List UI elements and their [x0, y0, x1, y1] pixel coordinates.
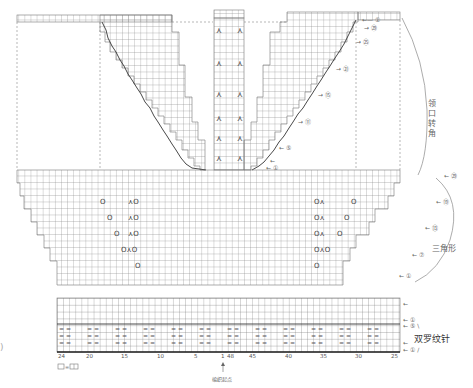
double-rib-label: 双罗纹针: [414, 333, 450, 344]
svg-text:⋏: ⋏: [237, 134, 243, 143]
svg-text:= =: = =: [227, 325, 239, 332]
svg-text:48: 48: [227, 353, 234, 359]
start-label: 编织起点: [212, 376, 232, 383]
svg-text:O⋏: O⋏: [314, 230, 325, 238]
svg-text:⋏O: ⋏O: [128, 230, 139, 238]
svg-text:= =: = =: [171, 339, 183, 346]
svg-text:40: 40: [285, 353, 292, 359]
start-point-arrow: [221, 362, 225, 372]
svg-text:= =: = =: [367, 339, 379, 346]
svg-text:← ⑬: ← ⑬: [425, 224, 438, 232]
svg-text:=: =: [65, 364, 69, 370]
svg-text:= =: = =: [143, 332, 155, 339]
svg-text:1: 1: [221, 353, 225, 359]
svg-text:← ① /: ← ① /: [403, 346, 420, 353]
neck-bracket: [402, 18, 427, 175]
svg-text:O: O: [337, 230, 343, 238]
row-markers-body: ← ㉙ ← ⑲ ← ⑬ ← ⑦ ← ①: [399, 172, 457, 279]
svg-text:= =: = =: [143, 325, 155, 332]
svg-text:= =: = =: [115, 339, 127, 346]
svg-text:= =: = =: [339, 332, 351, 339]
x-axis-labels: 24 20 15 10 5 1 48 45 40 35 30 25: [58, 353, 398, 359]
svg-text:转: 转: [428, 118, 436, 128]
paren-mark: ): [0, 342, 4, 352]
svg-text:= =: = =: [227, 332, 239, 339]
right-neck-staircase: [244, 12, 358, 170]
svg-text:= =: = =: [199, 325, 211, 332]
svg-text:⋏O: ⋏O: [128, 214, 139, 222]
svg-text:⋏: ⋏: [216, 114, 222, 123]
svg-text:10: 10: [157, 353, 164, 359]
svg-text:= =: = =: [87, 332, 99, 339]
svg-text:= =: = =: [115, 325, 127, 332]
center-column: ⋏⋏ ⋏⋏ ⋏⋏ ⋏⋏ ⋏⋏ ⋏⋏: [214, 10, 244, 170]
svg-text:⋏: ⋏: [237, 154, 243, 163]
svg-text:← ㉙: ← ㉙: [444, 172, 457, 180]
svg-text:30: 30: [355, 353, 362, 359]
svg-text:⋏: ⋏: [216, 90, 222, 99]
svg-text:= =: = =: [59, 339, 71, 346]
svg-text:O: O: [314, 262, 320, 270]
svg-text:⋏: ⋏: [237, 90, 243, 99]
left-neck-staircase: [100, 15, 206, 170]
svg-text:⋏: ⋏: [216, 154, 222, 163]
svg-text:← ⑦: ← ⑦: [412, 251, 424, 258]
row-markers-rib: ← ← ① ← ⑤ \ ← ← ① /: [403, 300, 420, 353]
svg-text:= =: = =: [255, 339, 267, 346]
svg-text:= =: = =: [87, 339, 99, 346]
knitting-chart: ⋏⋏ ⋏⋏ ⋏⋏ ⋏⋏ ⋏⋏ ⋏⋏ O⋏O O⋏O O⋏O O⋏O O O⋏O: [0, 0, 473, 388]
svg-text:⋏: ⋏: [237, 26, 243, 35]
svg-text:= =: = =: [311, 339, 323, 346]
svg-text:→ ㉙: → ㉙: [364, 24, 377, 32]
main-body-grid: O⋏O O⋏O O⋏O O⋏O O O⋏O O⋏O O⋏O O⋏O O: [17, 170, 400, 285]
svg-text:= =: = =: [283, 332, 295, 339]
svg-text:= =: = =: [283, 339, 295, 346]
svg-text:⋏: ⋏: [237, 114, 243, 123]
svg-text:O: O: [114, 230, 120, 238]
svg-text:口: 口: [428, 109, 436, 118]
svg-text:= =: = =: [171, 325, 183, 332]
svg-text:← ⑤: ← ⑤: [279, 144, 291, 151]
svg-text:45: 45: [249, 353, 256, 359]
svg-text:→ ㉑: → ㉑: [336, 65, 349, 73]
double-rib-band: = == == == == == == == == == == == = = =…: [57, 298, 400, 352]
neck-shaping-label: 领口转角: [428, 98, 436, 138]
svg-text:→ ⑪: → ⑪: [298, 118, 311, 126]
legend: =: [58, 364, 78, 370]
svg-text:= =: = =: [171, 332, 183, 339]
svg-text:= =: = =: [199, 339, 211, 346]
svg-text:←— ①: ←— ①: [362, 16, 380, 23]
svg-text:⋏: ⋏: [216, 134, 222, 143]
svg-text:← ①: ← ①: [266, 164, 278, 171]
svg-text:= =: = =: [339, 325, 351, 332]
svg-text:= =: = =: [143, 339, 155, 346]
svg-text:O: O: [100, 198, 106, 206]
svg-text:角: 角: [428, 128, 436, 138]
svg-text:= =: = =: [311, 332, 323, 339]
svg-text:←: ←: [270, 157, 275, 164]
svg-text:= =: = =: [115, 332, 127, 339]
svg-text:= =: = =: [255, 325, 267, 332]
svg-text:35: 35: [320, 353, 327, 359]
svg-text:←: ←: [403, 339, 408, 346]
svg-text:⋏: ⋏: [216, 59, 222, 68]
svg-text:领: 领: [428, 98, 436, 108]
svg-text:= =: = =: [339, 339, 351, 346]
svg-text:O⋏O: O⋏O: [314, 246, 331, 254]
svg-text:⋏: ⋏: [237, 59, 243, 68]
svg-text:= =: = =: [311, 325, 323, 332]
svg-text:O⋏: O⋏: [314, 214, 325, 222]
svg-text:20: 20: [86, 353, 93, 359]
svg-text:= =: = =: [367, 332, 379, 339]
svg-text:= =: = =: [59, 325, 71, 332]
svg-text:O⋏O: O⋏O: [121, 246, 138, 254]
svg-text:⋏: ⋏: [216, 26, 222, 35]
svg-text:←: ←: [403, 300, 408, 307]
svg-text:← ⑤ \: ← ⑤ \: [403, 322, 420, 329]
triangle-section-label: 三角形: [432, 243, 456, 253]
svg-text:= =: = =: [199, 332, 211, 339]
svg-text:24: 24: [58, 353, 65, 359]
svg-text:→ ㉕: → ㉕: [356, 38, 369, 46]
svg-text:5: 5: [194, 353, 198, 359]
svg-text:O: O: [351, 198, 357, 206]
